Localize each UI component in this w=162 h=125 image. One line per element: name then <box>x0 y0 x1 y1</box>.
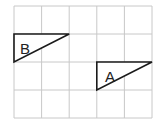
triangle-b-label: B <box>20 40 30 57</box>
triangle-a-label: A <box>105 68 115 85</box>
grid-diagram: B A <box>0 0 162 125</box>
